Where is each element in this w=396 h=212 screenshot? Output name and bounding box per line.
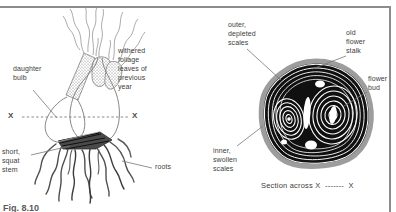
- figure-number-label: Fig. 8.10: [3, 203, 39, 212]
- leader-outer-depleted-scales: [247, 49, 281, 80]
- bulb-longitudinal-drawing: [22, 6, 152, 203]
- label-daughter-bulb: daughter bulb: [13, 64, 41, 82]
- daughter-bulb-outline: [45, 97, 85, 143]
- label-flower-bud: flower bud: [368, 74, 387, 92]
- label-short-squat-stem: short, squat stem: [2, 147, 20, 174]
- withered-leaf-bases: [66, 53, 122, 100]
- label-old-flower-stalk: old flower stalk: [346, 28, 365, 55]
- label-withered-foliage: withered foliage leaves of previous year: [118, 46, 147, 91]
- leader-daughter-bulb: [33, 90, 57, 118]
- label-inner-swollen-scales: inner, swollen scales: [213, 146, 237, 173]
- section-caption: Section across X ------- X: [261, 181, 354, 190]
- bulb-figure: daughter bulb withered foliage leaves of…: [0, 0, 396, 212]
- label-outer-depleted-scales: outer, depleted scales: [228, 20, 256, 47]
- leader-short-squat-stem: [31, 146, 70, 155]
- leader-inner-swollen-scales: [237, 126, 263, 146]
- basal-plate: [57, 132, 112, 149]
- label-roots: roots: [155, 162, 171, 171]
- x-mark-right: X: [132, 111, 137, 120]
- x-mark-left: X: [8, 111, 13, 120]
